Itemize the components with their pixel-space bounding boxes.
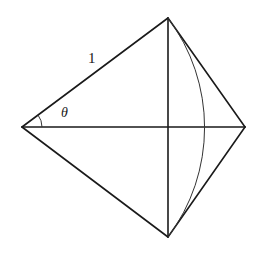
angle-arc bbox=[38, 115, 42, 127]
kite-diagram: 1 θ bbox=[0, 0, 260, 257]
angle-theta-label: θ bbox=[61, 105, 68, 120]
edge-left-top bbox=[22, 18, 168, 127]
side-length-label: 1 bbox=[88, 50, 96, 66]
edge-bottom-left bbox=[22, 127, 168, 237]
